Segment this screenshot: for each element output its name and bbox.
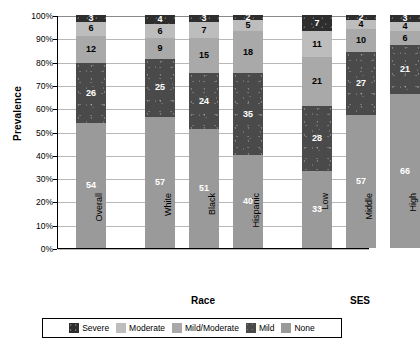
bar-segment-value: 28 [312, 134, 322, 143]
bar-segment-value: 26 [86, 89, 96, 98]
y-tick-mark [53, 109, 57, 110]
bar-segment-value: 51 [199, 184, 209, 193]
bar-segment-severe[interactable]: 2 [233, 15, 263, 20]
bar-segment-value: 27 [356, 79, 366, 88]
legend-swatch-mildmod [172, 323, 182, 333]
bar-segment-mildmod[interactable]: 12 [76, 36, 106, 64]
bar-segment-value: 7 [201, 26, 206, 35]
legend-label: None [294, 323, 314, 333]
y-tick-label: 40% [18, 151, 53, 161]
bar-segment-severe[interactable]: 3 [390, 15, 420, 22]
x-tick-label-overall: Overall [94, 193, 104, 253]
bar-segment-moderate[interactable]: 11 [302, 31, 332, 57]
legend-swatch-severe [69, 323, 79, 333]
group-label-race: Race [144, 295, 262, 306]
bar-segment-moderate[interactable]: 6 [76, 22, 106, 36]
bar-segment-mild[interactable]: 35 [233, 73, 263, 155]
y-tick-label: 10% [18, 221, 53, 231]
bar-segment-mild[interactable]: 28 [302, 106, 332, 171]
y-tick-label: 20% [18, 197, 53, 207]
x-tick-label-white: White [163, 193, 173, 253]
bar-segment-value: 4 [358, 20, 363, 29]
bar-segment-value: 10 [356, 36, 366, 45]
bar-segment-value: 15 [199, 51, 209, 60]
bar-segment-mildmod[interactable]: 18 [233, 31, 263, 73]
bar-segment-value: 21 [312, 77, 322, 86]
bar-segment-value: 4 [157, 15, 162, 24]
legend-item-mild[interactable]: Mild [246, 323, 275, 333]
bar-segment-mildmod[interactable]: 10 [346, 29, 376, 52]
y-tick-mark [53, 63, 57, 64]
bar-segment-moderate[interactable]: 4 [346, 20, 376, 29]
y-tick-label: 90% [18, 34, 53, 44]
bar-segment-mild[interactable]: 21 [390, 45, 420, 94]
chart-legend: SevereModerateMild/ModerateMildNone [42, 318, 342, 338]
legend-swatch-mild [246, 323, 256, 333]
y-tick-label: 100% [18, 11, 53, 21]
bar-segment-mildmod[interactable]: 21 [302, 57, 332, 106]
y-tick-mark [53, 179, 57, 180]
legend-item-none[interactable]: None [281, 323, 314, 333]
y-tick-mark [53, 249, 57, 250]
bar-segment-mild[interactable]: 24 [189, 73, 219, 129]
legend-item-mildmod[interactable]: Mild/Moderate [172, 323, 239, 333]
legend-label: Mild/Moderate [185, 323, 239, 333]
bar-segment-value: 2 [358, 15, 363, 20]
bar-segment-severe[interactable]: 4 [145, 15, 175, 24]
bar-segment-value: 3 [402, 15, 407, 22]
legend-swatch-none [281, 323, 291, 333]
bar-segment-value: 57 [155, 178, 165, 187]
y-tick-label: 50% [18, 128, 53, 138]
bar-segment-severe[interactable]: 3 [189, 15, 219, 22]
bar-segment-value: 6 [88, 24, 93, 33]
bar-segment-value: 9 [157, 44, 162, 53]
bar-segment-value: 6 [157, 27, 162, 36]
x-tick-label-black: Black [207, 193, 217, 253]
bar-segment-moderate[interactable]: 7 [189, 22, 219, 38]
bar-segment-value: 3 [88, 15, 93, 22]
bar-segment-moderate[interactable]: 5 [233, 20, 263, 32]
legend-item-severe[interactable]: Severe [69, 323, 109, 333]
y-tick-mark [53, 156, 57, 157]
bar-segment-mildmod[interactable]: 6 [390, 31, 420, 45]
bar-segment-value: 4 [402, 22, 407, 31]
bar-segment-value: 6 [402, 34, 407, 43]
x-tick-label-middle: Middle [364, 193, 374, 253]
bar-segment-mild[interactable]: 27 [346, 52, 376, 115]
bar-segment-value: 25 [155, 83, 165, 92]
bar-segment-mild[interactable]: 25 [145, 59, 175, 117]
y-tick-mark [53, 226, 57, 227]
y-tick-mark [53, 39, 57, 40]
legend-label: Moderate [129, 323, 165, 333]
bar-segment-value: 66 [400, 167, 410, 176]
y-tick-label: 0% [18, 244, 53, 254]
legend-item-moderate[interactable]: Moderate [116, 323, 165, 333]
y-tick-label: 70% [18, 81, 53, 91]
bar-segment-value: 7 [314, 19, 319, 28]
legend-label: Severe [82, 323, 109, 333]
y-tick-label: 80% [18, 58, 53, 68]
y-tick-mark [53, 86, 57, 87]
y-tick-mark [53, 16, 57, 17]
x-tick-label-hispanic: Hispanic [251, 193, 261, 253]
bar-segment-value: 35 [243, 110, 253, 119]
bar-segment-value: 2 [245, 15, 250, 20]
bar-segment-severe[interactable]: 3 [76, 15, 106, 22]
bar-segment-severe[interactable]: 2 [346, 15, 376, 20]
bar-segment-severe[interactable]: 7 [302, 15, 332, 31]
bar-segment-mild[interactable]: 26 [76, 63, 106, 123]
y-tick-label: 30% [18, 174, 53, 184]
bar-segment-moderate[interactable]: 4 [390, 22, 420, 31]
bar-segment-value: 5 [245, 21, 250, 30]
legend-label: Mild [259, 323, 275, 333]
bar-segment-moderate[interactable]: 6 [145, 24, 175, 38]
y-tick-mark [53, 202, 57, 203]
bar-segment-value: 24 [199, 97, 209, 106]
bar-segment-mildmod[interactable]: 15 [189, 38, 219, 73]
bar-segment-mildmod[interactable]: 9 [145, 38, 175, 59]
bar-segment-value: 21 [400, 65, 410, 74]
y-tick-mark [53, 133, 57, 134]
bar-segment-value: 54 [86, 181, 96, 190]
group-label-ses: SES [301, 295, 419, 306]
